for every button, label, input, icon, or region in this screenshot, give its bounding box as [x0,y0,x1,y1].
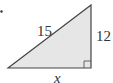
hypotenuse-label: 15 [37,24,52,39]
horizontal-leg-label: x [54,71,61,83]
bullet-dot [0,10,2,12]
vertical-leg-label: 12 [96,29,111,44]
